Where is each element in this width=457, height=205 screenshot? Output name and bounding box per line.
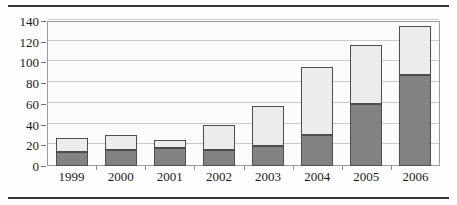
y-axis-tick-label: 20 xyxy=(26,139,39,152)
bar-2004[interactable] xyxy=(301,67,333,166)
bar-segment-upper[interactable] xyxy=(252,106,284,146)
figure-container: 020406080100120140 199920002001200220032… xyxy=(0,0,457,205)
x-axis-tick-label-2005: 2005 xyxy=(353,170,379,183)
bar-segment-lower[interactable] xyxy=(301,135,333,166)
y-axis-tick xyxy=(41,21,46,22)
stacked-bar-chart: 020406080100120140 199920002001200220032… xyxy=(0,0,457,205)
x-axis-tick-label-2004: 2004 xyxy=(304,170,330,183)
y-axis-tick-label: 40 xyxy=(26,118,39,131)
y-axis-tick-label: 120 xyxy=(20,35,40,48)
bar-segment-upper[interactable] xyxy=(154,140,186,148)
bar-2005[interactable] xyxy=(350,45,382,166)
y-axis-tick-label: 60 xyxy=(26,97,39,110)
y-axis-tick xyxy=(41,125,46,126)
bar-segment-upper[interactable] xyxy=(301,67,333,135)
bar-segment-upper[interactable] xyxy=(399,26,431,75)
x-axis-labels: 19992000200120022003200420052006 xyxy=(47,170,440,190)
y-axis-tick-label: 140 xyxy=(20,15,40,28)
gridline xyxy=(48,19,439,20)
y-axis-labels: 020406080100120140 xyxy=(0,21,44,166)
bar-1999[interactable] xyxy=(56,138,88,166)
y-axis-tick xyxy=(41,104,46,105)
bar-segment-upper[interactable] xyxy=(56,138,88,151)
bar-2003[interactable] xyxy=(252,106,284,166)
y-axis-tick-label: 100 xyxy=(20,56,40,69)
x-axis-tick-label-2000: 2000 xyxy=(108,170,134,183)
bar-segment-upper[interactable] xyxy=(350,45,382,104)
bar-segment-upper[interactable] xyxy=(105,135,137,151)
bar-segment-lower[interactable] xyxy=(154,148,186,166)
x-axis-tick-label-1999: 1999 xyxy=(59,170,85,183)
bar-segment-lower[interactable] xyxy=(203,150,235,166)
bar-segment-lower[interactable] xyxy=(105,150,137,166)
bar-2001[interactable] xyxy=(154,140,186,166)
x-axis-tick-label-2002: 2002 xyxy=(206,170,232,183)
bar-segment-lower[interactable] xyxy=(350,104,382,166)
x-axis-tick-label-2003: 2003 xyxy=(255,170,281,183)
y-axis-tick xyxy=(41,166,46,167)
bar-group xyxy=(47,21,440,166)
bar-2002[interactable] xyxy=(203,125,235,166)
y-axis-tick-label: 80 xyxy=(26,77,39,90)
bar-2006[interactable] xyxy=(399,26,431,166)
y-axis-tick xyxy=(41,83,46,84)
x-axis-tick-label-2001: 2001 xyxy=(157,170,183,183)
y-axis-tick-label: 0 xyxy=(33,160,40,173)
bar-segment-lower[interactable] xyxy=(252,146,284,166)
bar-segment-lower[interactable] xyxy=(399,75,431,166)
bar-segment-lower[interactable] xyxy=(56,152,88,167)
y-axis-tick xyxy=(41,145,46,146)
bar-2000[interactable] xyxy=(105,135,137,166)
x-axis-tick-label-2006: 2006 xyxy=(402,170,428,183)
y-axis-tick xyxy=(41,42,46,43)
y-axis-tick xyxy=(41,62,46,63)
bar-segment-upper[interactable] xyxy=(203,125,235,151)
